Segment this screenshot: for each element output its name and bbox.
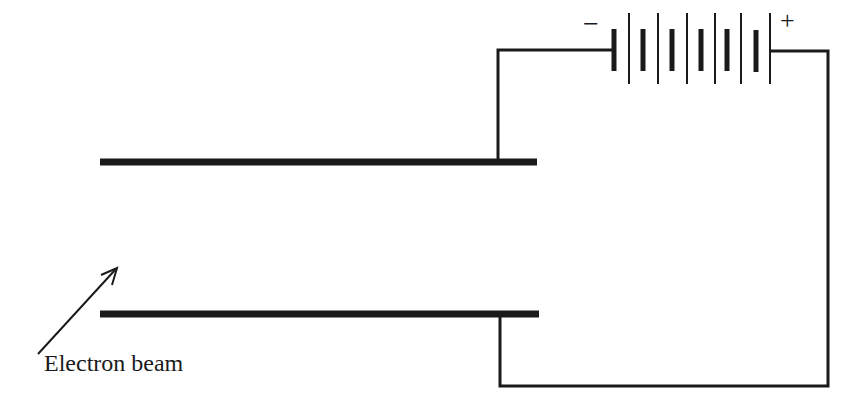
- battery: [614, 13, 770, 84]
- circuit-drawing: [0, 0, 867, 407]
- diagram-canvas: − + Electron beam: [0, 0, 867, 407]
- wire-negative: [498, 50, 613, 159]
- wire-positive: [500, 51, 828, 386]
- electron-beam-label: Electron beam: [44, 350, 183, 377]
- positive-terminal-label: +: [780, 6, 795, 36]
- negative-terminal-label: −: [583, 8, 599, 40]
